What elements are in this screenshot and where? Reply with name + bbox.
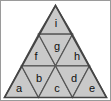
triangle-svg: ifghabcde (0, 0, 111, 101)
cell-e-label: e (89, 82, 95, 94)
cell-a-label: a (16, 82, 23, 94)
cell-b-label: b (36, 72, 42, 84)
cell-g-label: g (54, 40, 60, 52)
cell-i-label: i (55, 17, 57, 29)
triangle-diagram: ifghabcde (0, 0, 111, 101)
cell-h-label: h (74, 50, 80, 62)
cell-c-label: c (54, 82, 60, 94)
cell-d-label: d (71, 72, 77, 84)
